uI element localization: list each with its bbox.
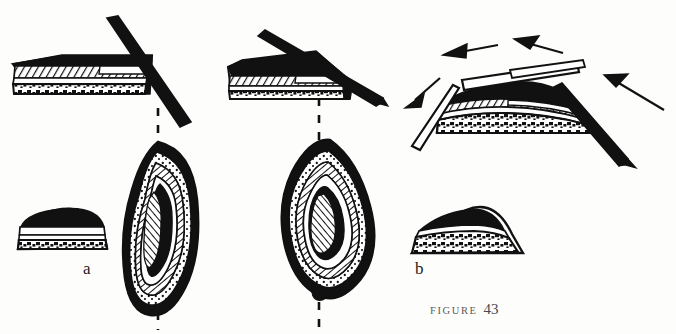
core-a-top-surface: [13, 55, 152, 66]
arrow-upper-right-icon: [514, 36, 563, 53]
panel-mid-plan-lenticular: [282, 140, 374, 300]
section-a-white-band-1: [19, 227, 105, 235]
section-b-stipple-base: [412, 231, 518, 253]
figure-caption-word: FIGURE: [430, 305, 478, 316]
panel-b-section-dome: [412, 207, 523, 253]
section-a-stipple-base: [18, 240, 107, 249]
arrow-lower-right-icon: [604, 74, 664, 110]
arrow-left-horizontal-icon: [443, 44, 498, 58]
core-a-stipple-band: [13, 84, 146, 94]
arrow-left-down-icon: [405, 78, 440, 108]
core-mid-stipple-band: [229, 91, 349, 99]
section-a-black-cap: [21, 209, 104, 227]
panel-a-core-block: [13, 55, 152, 94]
figure-drawing-canvas: [0, 0, 676, 334]
figure-illustration: a b FIGURE43: [0, 0, 676, 334]
figure-caption: FIGURE43: [430, 301, 499, 318]
figure-caption-number: 43: [484, 301, 499, 317]
panel-a-label: a: [83, 259, 91, 279]
panel-a-plan-teardrop: [123, 142, 198, 315]
panel-b-label: b: [415, 259, 424, 279]
panel-a-section-dome: [18, 209, 107, 249]
